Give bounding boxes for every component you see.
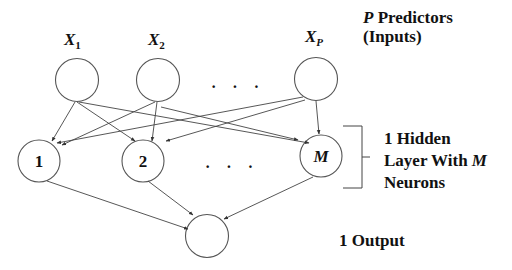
edge-x2-h1 <box>62 102 155 145</box>
edge-x2-hm <box>161 107 298 140</box>
hidden-label-2: 2 <box>139 152 148 172</box>
edge-xp-h2 <box>166 100 305 141</box>
input-node-x1 <box>56 59 99 102</box>
input-label-x2: X2 <box>148 30 165 51</box>
input-node-xp <box>295 58 338 101</box>
edge-x1-h2 <box>77 102 135 141</box>
hidden-label-m: M <box>313 147 328 167</box>
edge-h1-out <box>47 181 188 229</box>
input-caption: P Predictors (Inputs) <box>363 8 453 46</box>
edge-x1-hm <box>79 102 309 143</box>
input-ellipsis: · · · <box>211 78 265 96</box>
hidden-ellipsis: · · · <box>205 158 259 176</box>
hidden-caption: 1 Hidden Layer With M Neurons <box>384 128 487 194</box>
edges <box>47 97 319 229</box>
edge-h2-out <box>148 181 193 215</box>
input-label-x1: X1 <box>64 30 81 51</box>
input-label-xp: XP <box>305 27 323 48</box>
hidden-label-1: 1 <box>35 152 44 172</box>
edge-x1-h1 <box>52 102 75 141</box>
edge-xp-hm <box>316 101 319 134</box>
hidden-layer-bracket <box>343 126 370 188</box>
edge-x2-h2 <box>152 102 157 141</box>
output-node <box>186 215 229 258</box>
edge-xp-h1 <box>57 97 303 143</box>
edge-hm-out <box>224 177 313 219</box>
input-node-x2 <box>137 59 180 102</box>
output-caption: 1 Output <box>339 231 405 250</box>
